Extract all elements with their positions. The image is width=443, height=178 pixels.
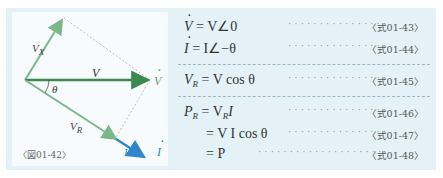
eq-lhs: I — [184, 41, 189, 57]
label-i-dot: I — [157, 145, 161, 160]
equation-01-47: = V I cos θ ····························… — [170, 124, 432, 146]
phasor-svg — [12, 12, 168, 166]
eq-rhs: = P — [206, 146, 225, 161]
eq-rhs: = I∠−θ — [189, 41, 236, 56]
eq-rhs: = V — [198, 104, 223, 119]
equation-ref: 〈式01-45〉 — [367, 74, 424, 88]
eq-lhs: P — [184, 104, 193, 119]
vector-i — [116, 139, 144, 157]
equation-ref: 〈式01-43〉 — [367, 20, 424, 34]
eq-rhs-tail: I — [228, 104, 233, 119]
dashed-line-bottom — [115, 80, 150, 139]
separator — [178, 64, 430, 65]
equation-01-44: I = I∠−θ ·······························… — [170, 38, 432, 60]
eq-rhs: = V∠0 — [193, 19, 238, 34]
separator — [178, 96, 430, 97]
eq-rhs: = V cos θ — [198, 72, 255, 87]
figure-label: 〈図01-42〉 — [18, 148, 71, 161]
eq-rhs: = V I cos θ — [206, 126, 268, 141]
label-v: V — [92, 66, 99, 81]
equation-ref: 〈式01-46〉 — [367, 106, 424, 120]
theta-arc — [45, 80, 49, 93]
leader-dots: ·································· — [258, 146, 384, 157]
label-vr: VR — [70, 120, 82, 135]
label-theta: θ — [52, 83, 57, 95]
phasor-diagram: VX V V θ VR I I 〈図01-42〉 — [12, 12, 168, 166]
equation-01-46: PR = VRI ·······························… — [170, 102, 432, 124]
equation-ref: 〈式01-44〉 — [367, 42, 424, 56]
label-i: I — [124, 146, 128, 158]
equation-01-48: = P ·································· 〈… — [170, 144, 432, 166]
eq-lhs: V — [184, 72, 193, 87]
label-vx: VX — [32, 42, 44, 57]
equation-ref: 〈式01-48〉 — [367, 148, 424, 162]
equation-ref: 〈式01-47〉 — [367, 128, 424, 142]
equation-01-45: VR = V cos θ ···························… — [170, 70, 432, 92]
label-v-dot: V — [154, 74, 161, 89]
equation-01-43: V = V∠0 ································… — [170, 16, 432, 38]
equations-panel: V = V∠0 ································… — [170, 12, 432, 166]
dashed-line-top — [64, 18, 150, 80]
